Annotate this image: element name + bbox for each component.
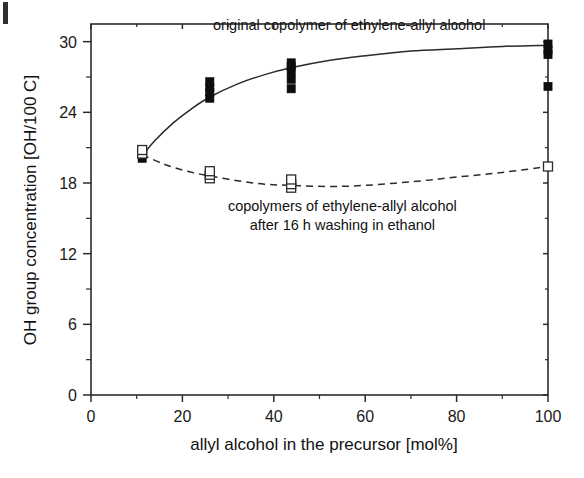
figure-container: 020406080100 0612182430 allyl alcohol in… <box>0 0 584 478</box>
x-tick-label: 60 <box>356 408 374 425</box>
x-axis-title: allyl alcohol in the precursor [mol%] <box>190 435 457 454</box>
x-tick-label: 80 <box>448 408 466 425</box>
x-tick-label: 100 <box>535 408 562 425</box>
data-point-filled <box>544 40 552 48</box>
data-point-filled <box>206 78 214 86</box>
y-tick-label: 24 <box>59 104 77 121</box>
y-axis-title: OH group concentration [OH/100 C] <box>21 75 40 345</box>
scatter-chart: 020406080100 0612182430 allyl alcohol in… <box>0 0 584 478</box>
y-tick-label: 0 <box>68 387 77 404</box>
y-tick-label: 18 <box>59 175 77 192</box>
annotation-line: original copolymer of ethylene-allyl alc… <box>213 17 485 33</box>
scan-artifact-mark <box>3 2 8 24</box>
data-point-open <box>205 167 214 176</box>
x-tick-label: 0 <box>87 408 96 425</box>
y-tick-label: 12 <box>59 246 77 263</box>
y-tick-label: 6 <box>68 316 77 333</box>
x-tick-label: 20 <box>174 408 192 425</box>
data-point-filled <box>287 59 295 67</box>
data-point-open <box>138 146 147 155</box>
data-point-filled <box>287 85 295 93</box>
x-tick-label: 40 <box>265 408 283 425</box>
data-point-open <box>287 175 296 184</box>
annotation-line: copolymers of ethylene-allyl alcohol <box>228 198 457 214</box>
y-tick-label: 30 <box>59 34 77 51</box>
data-point-filled <box>287 75 295 83</box>
data-point-open <box>544 162 553 171</box>
annotation-line: after 16 h washing in ethanol <box>250 217 435 233</box>
data-point-filled <box>544 82 552 90</box>
